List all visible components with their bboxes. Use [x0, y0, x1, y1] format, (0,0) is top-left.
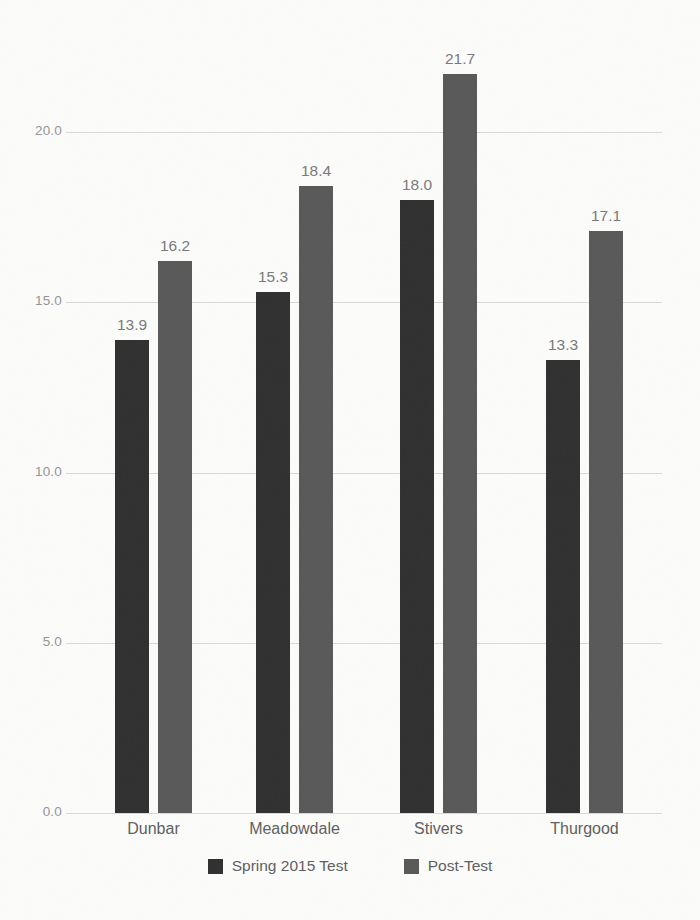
legend-item: Spring 2015 Test	[208, 857, 348, 875]
y-axis-tick-label: 0.0	[2, 804, 62, 819]
grouped-bar-chart: 0.05.010.015.020.013.916.2Dunbar15.318.4…	[0, 0, 700, 920]
legend-swatch-icon	[404, 859, 419, 874]
legend-item: Post-Test	[404, 857, 493, 875]
x-axis-category-label: Stivers	[364, 820, 514, 838]
value-label: 13.3	[533, 336, 593, 354]
x-axis-category-label: Meadowdale	[220, 820, 370, 838]
bar-dunbar-spring-2015-test	[115, 340, 149, 813]
value-label: 13.9	[102, 316, 162, 334]
bar-meadowdale-spring-2015-test	[256, 292, 290, 813]
value-label: 18.0	[387, 176, 447, 194]
bar-thurgood-post-test	[589, 231, 623, 813]
bar-stivers-post-test	[443, 74, 477, 813]
gridline-15.0	[66, 302, 662, 303]
y-axis-tick-label: 10.0	[2, 464, 62, 479]
legend-label: Spring 2015 Test	[232, 857, 348, 875]
bar-stivers-spring-2015-test	[400, 200, 434, 813]
legend-label: Post-Test	[428, 857, 493, 875]
y-axis-tick-label: 5.0	[2, 634, 62, 649]
legend: Spring 2015 TestPost-Test	[0, 857, 700, 875]
value-label: 16.2	[145, 237, 205, 255]
bar-thurgood-spring-2015-test	[546, 360, 580, 813]
bar-meadowdale-post-test	[299, 186, 333, 813]
chart-page: 0.05.010.015.020.013.916.2Dunbar15.318.4…	[0, 0, 700, 920]
gridline-20.0	[66, 132, 662, 133]
gridline-0.0	[66, 813, 662, 814]
value-label: 15.3	[243, 268, 303, 286]
x-axis-category-label: Dunbar	[79, 820, 229, 838]
value-label: 18.4	[286, 162, 346, 180]
legend-swatch-icon	[208, 859, 223, 874]
y-axis-tick-label: 20.0	[2, 123, 62, 138]
y-axis-tick-label: 15.0	[2, 293, 62, 308]
value-label: 21.7	[430, 50, 490, 68]
x-axis-category-label: Thurgood	[510, 820, 660, 838]
value-label: 17.1	[576, 207, 636, 225]
bar-dunbar-post-test	[158, 261, 192, 813]
